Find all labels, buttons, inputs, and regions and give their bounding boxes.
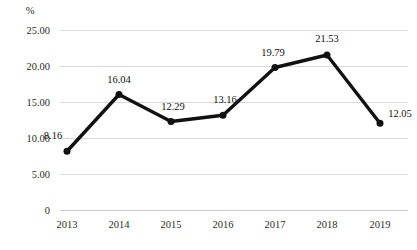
data-point-marker [324,51,331,58]
data-point-marker [64,148,71,155]
x-axis-tick-label: 2017 [265,219,286,230]
data-point-marker [168,118,175,125]
data-point-value-label: 12.05 [388,108,412,119]
y-axis-tick-label: 20.00 [26,61,50,72]
y-axis-tick-label: 0 [45,205,50,216]
data-point-marker [116,91,123,98]
x-axis-tick-label: 2013 [57,219,78,230]
data-point-value-label: 12.29 [161,101,185,112]
y-axis-tick-label: 5.00 [32,169,50,180]
data-point-value-label: 8.16 [44,130,62,141]
data-point-marker [220,112,227,119]
x-axis-tick-label: 2016 [213,219,234,230]
y-axis-unit-label: % [26,5,35,16]
chart-canvas: 05.0010.0015.0020.0025.00 20132014201520… [0,0,417,250]
x-axis-tick-label: 2018 [317,219,338,230]
data-point-marker [272,64,279,71]
x-axis-tick-label: 2014 [109,219,131,230]
y-axis-tick-label: 25.00 [26,25,50,36]
data-point-marker [377,120,384,127]
data-point-value-label: 21.53 [315,33,339,44]
data-point-value-label: 16.04 [107,74,131,85]
data-point-value-label: 13.16 [213,94,237,105]
x-axis-tick-label: 2019 [370,219,391,230]
data-point-value-label: 19.79 [261,47,285,58]
x-axis-tick-label: 2015 [161,219,182,230]
y-axis-tick-label: 15.00 [26,97,50,108]
line-chart: 05.0010.0015.0020.0025.00 20132014201520… [0,0,417,250]
chart-background [0,0,417,250]
